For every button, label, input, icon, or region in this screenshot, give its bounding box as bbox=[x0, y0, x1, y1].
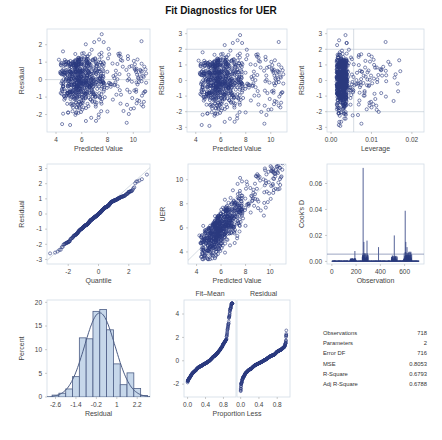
x-tick-label: 0.0 bbox=[236, 401, 245, 408]
y-tick-label: -1 bbox=[36, 93, 42, 100]
plot-residual-qq: -202-3-2-10123QuantileResidual bbox=[18, 164, 150, 285]
histogram-bar bbox=[79, 338, 86, 397]
x-axis-label: Predicted Value bbox=[74, 145, 123, 152]
x-tick-label: 0.4 bbox=[201, 401, 210, 408]
x-axis-label: Predicted Value bbox=[213, 277, 262, 284]
x-tick-label: 0.00 bbox=[325, 136, 338, 143]
y-tick-label: 0 bbox=[178, 77, 182, 84]
y-tick-label: 10 bbox=[35, 346, 43, 353]
x-tick-label: 8 bbox=[106, 136, 110, 143]
stat-row: Error DF716 bbox=[323, 348, 427, 358]
y-tick-label: -2 bbox=[316, 108, 322, 115]
x-tick-label: -2.6 bbox=[50, 401, 62, 408]
y-tick-label: 4 bbox=[175, 310, 179, 317]
x-tick-label: 0.8 bbox=[219, 401, 228, 408]
plot-rstudent-vs-leverage: 0.000.010.02-3-2-10123LeverageRStudent bbox=[298, 29, 424, 153]
x-tick-label: 4 bbox=[195, 268, 199, 275]
x-tick-label: 6 bbox=[219, 268, 223, 275]
x-tick-label: 8 bbox=[244, 136, 248, 143]
histogram-bar bbox=[66, 389, 73, 397]
x-tick-label: 0.0 bbox=[183, 401, 192, 408]
y-tick-label: 2 bbox=[38, 41, 42, 48]
data-point bbox=[276, 144, 279, 147]
stat-label: Adj R-Square bbox=[323, 379, 358, 389]
y-tick-label: 1 bbox=[178, 61, 182, 68]
x-tick-label: 8 bbox=[244, 268, 248, 275]
x-tick-label: 10 bbox=[267, 136, 275, 143]
x-tick-label: -0.2 bbox=[91, 401, 103, 408]
y-tick-label: 0.06 bbox=[309, 180, 322, 187]
stat-row: Observations718 bbox=[323, 328, 427, 338]
y-tick-label: 10 bbox=[176, 176, 184, 183]
x-tick-label: 4 bbox=[194, 136, 198, 143]
stat-row: MSE0.8053 bbox=[323, 359, 427, 369]
y-tick-label: 0.02 bbox=[309, 232, 322, 239]
stat-row: Adj R-Square0.6788 bbox=[323, 379, 427, 389]
stat-label: MSE bbox=[323, 359, 336, 369]
y-tick-label: 3 bbox=[178, 30, 182, 37]
x-axis-label: Residual bbox=[85, 410, 113, 417]
y-tick-label: 2 bbox=[175, 334, 179, 341]
x-axis-label: Quantile bbox=[85, 277, 111, 285]
fit-statistics-table: Observations718Parameters2Error DF716MSE… bbox=[323, 328, 427, 389]
stat-value: 0.8053 bbox=[409, 359, 427, 369]
x-tick-label: -1.4 bbox=[70, 401, 82, 408]
x-tick-label: 0.4 bbox=[254, 401, 263, 408]
histogram-bar bbox=[100, 309, 107, 397]
y-tick-label: 0 bbox=[175, 357, 179, 364]
y-tick-label: -3 bbox=[316, 124, 322, 131]
x-tick-label: 600 bbox=[399, 268, 410, 275]
spread-panel-header: Residual bbox=[250, 290, 278, 297]
y-tick-label: 0 bbox=[318, 77, 322, 84]
stat-row: Parameters2 bbox=[323, 338, 427, 348]
x-tick-label: 0.8 bbox=[273, 401, 282, 408]
y-axis-label: Residual bbox=[18, 200, 25, 228]
x-tick-label: 2 bbox=[127, 268, 131, 275]
x-tick-label: 0.02 bbox=[406, 136, 419, 143]
y-tick-label: 2 bbox=[318, 46, 322, 53]
y-tick-label: 1 bbox=[318, 61, 322, 68]
chart-title: Fit Diagnostics for UER bbox=[165, 5, 277, 16]
plot-frame bbox=[327, 164, 424, 264]
x-tick-label: 200 bbox=[351, 268, 362, 275]
data-point bbox=[276, 159, 279, 162]
y-tick-label: -3 bbox=[176, 124, 182, 131]
plot-residual-fit-spread: Fit–Mean0.00.40.8Residual0.00.40.8-2024P… bbox=[173, 290, 290, 418]
x-tick-label: 4 bbox=[54, 136, 58, 143]
stat-label: Observations bbox=[323, 328, 357, 338]
stat-value: 2 bbox=[424, 338, 427, 348]
plot-residual-vs-predicted: 46810-2-1012Predicted ValueResidual bbox=[18, 29, 150, 152]
y-tick-label: 3 bbox=[318, 30, 322, 37]
x-axis-label: Observation bbox=[357, 277, 395, 284]
y-tick-label: -1 bbox=[176, 92, 182, 99]
y-tick-label: -1 bbox=[36, 225, 42, 232]
x-tick-label: 6 bbox=[219, 136, 223, 143]
histogram-bar bbox=[93, 311, 100, 397]
data-point bbox=[273, 160, 276, 163]
y-axis-label: Residual bbox=[18, 66, 25, 94]
stat-label: Parameters bbox=[323, 338, 353, 348]
x-axis-label: Proportion Less bbox=[212, 410, 262, 418]
y-tick-label: 0 bbox=[38, 393, 42, 400]
x-tick-label: -2 bbox=[65, 268, 71, 275]
y-tick-label: -3 bbox=[36, 256, 42, 263]
stat-row: R-Square0.6793 bbox=[323, 369, 427, 379]
y-tick-label: -1 bbox=[316, 92, 322, 99]
data-point bbox=[280, 160, 283, 163]
plot-rstudent-vs-predicted: 46810-3-2-10123Predicted ValueRStudent bbox=[158, 29, 287, 152]
x-tick-label: 6 bbox=[80, 136, 84, 143]
x-tick-label: 400 bbox=[375, 268, 386, 275]
histogram-bar bbox=[113, 364, 120, 397]
y-tick-label: -2 bbox=[173, 380, 179, 387]
y-tick-label: 0.00 bbox=[309, 258, 322, 265]
y-axis-label: Cook's D bbox=[298, 200, 305, 228]
histogram-bar bbox=[120, 385, 127, 397]
x-tick-label: 1 bbox=[115, 401, 119, 408]
y-tick-label: 3 bbox=[38, 165, 42, 172]
y-tick-label: 0.04 bbox=[309, 206, 322, 213]
y-tick-label: 1 bbox=[38, 195, 42, 202]
stat-value: 716 bbox=[417, 348, 427, 358]
x-tick-label: 10 bbox=[266, 268, 274, 275]
plot-cooks-d: 02004006000.000.020.040.06ObservationCoo… bbox=[298, 164, 424, 284]
stat-value: 0.6788 bbox=[409, 379, 427, 389]
